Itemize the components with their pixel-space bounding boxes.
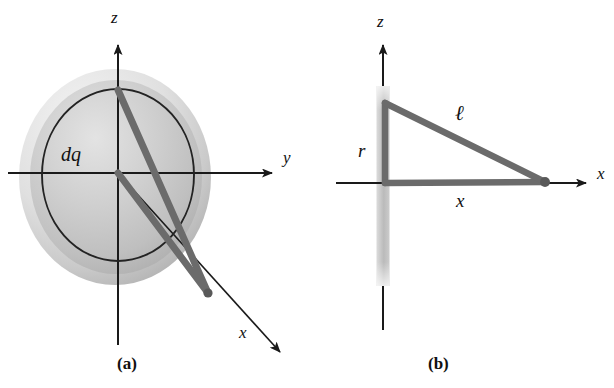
field-point-b xyxy=(540,177,550,187)
panel-caption-a: (a) xyxy=(117,354,137,374)
distance-label-x: x xyxy=(456,190,464,212)
panel-b-graphic xyxy=(336,45,586,330)
field-point-a xyxy=(203,288,212,297)
slant-distance-label-ell: ℓ xyxy=(455,101,464,126)
axis-label-z-a: z xyxy=(111,8,118,28)
axis-label-x-a: x xyxy=(239,323,247,343)
radius-label-r: r xyxy=(358,140,365,162)
physics-figure-charged-disk: z y x dq z x r ℓ x (a) (b) xyxy=(0,0,614,388)
axis-label-z-b: z xyxy=(377,12,384,32)
segment-ell xyxy=(385,103,545,182)
panel-a-graphic xyxy=(8,45,280,352)
segment-x xyxy=(385,182,545,183)
charge-element-label-dq: dq xyxy=(61,143,81,166)
axis-label-y-a: y xyxy=(283,148,291,168)
figure-canvas xyxy=(0,0,614,388)
panel-caption-b: (b) xyxy=(428,354,449,374)
axis-label-x-b: x xyxy=(597,164,605,184)
